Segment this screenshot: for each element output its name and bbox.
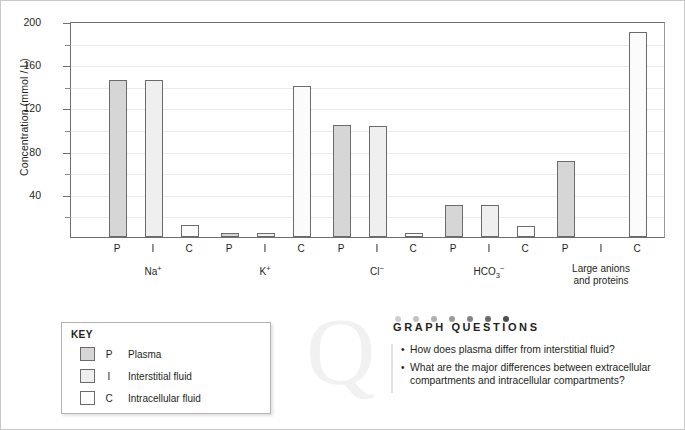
watermark-q-letter: Q bbox=[306, 304, 375, 400]
y-tick-80 bbox=[63, 153, 71, 154]
tick-label-chloride-p: P bbox=[326, 243, 356, 254]
bar-potassium-i bbox=[257, 233, 275, 237]
group-label-large-anions: Large anionsand proteins bbox=[531, 263, 671, 286]
key-label-p: Plasma bbox=[128, 349, 161, 360]
graph-questions-title: GRAPH QUESTIONS bbox=[393, 321, 540, 333]
key-title: KEY bbox=[71, 329, 93, 340]
y-tick-200 bbox=[63, 23, 71, 24]
gridline-180 bbox=[71, 45, 664, 46]
y-tick-140 bbox=[65, 88, 71, 89]
graph-figure-page: Concentration (mmol / L) 4080120160200 P… bbox=[0, 0, 685, 430]
tick-label-potassium-p: P bbox=[214, 243, 244, 254]
key-label-i: Interstitial fluid bbox=[128, 371, 192, 382]
bar-large-anions-c bbox=[629, 32, 647, 237]
key-swatch-c bbox=[80, 391, 95, 405]
plot-area: 4080120160200 bbox=[70, 22, 665, 238]
key-code-c: C bbox=[102, 393, 116, 404]
tick-label-chloride-c: C bbox=[398, 243, 428, 254]
bar-bicarbonate-p bbox=[445, 205, 463, 237]
bar-sodium-p bbox=[109, 80, 127, 237]
bar-chloride-p bbox=[333, 125, 351, 237]
y-tick-120 bbox=[63, 109, 71, 110]
y-tick-100 bbox=[65, 131, 71, 132]
graph-questions-list: How does plasma differ from interstitial… bbox=[391, 344, 666, 393]
bar-large-anions-p bbox=[557, 161, 575, 237]
y-tick-label-120: 120 bbox=[1, 103, 41, 114]
gridline-200 bbox=[71, 23, 664, 24]
bar-sodium-c bbox=[181, 225, 199, 237]
gridline-160 bbox=[71, 66, 664, 67]
key-swatch-p bbox=[80, 347, 95, 361]
bar-bicarbonate-c bbox=[517, 226, 535, 237]
tick-label-sodium-c: C bbox=[174, 243, 204, 254]
tick-label-potassium-c: C bbox=[286, 243, 316, 254]
tick-label-large-anions-p: P bbox=[550, 243, 580, 254]
bar-chloride-c bbox=[405, 233, 423, 237]
tick-label-sodium-p: P bbox=[102, 243, 132, 254]
tick-label-bicarbonate-p: P bbox=[438, 243, 468, 254]
y-tick-label-200: 200 bbox=[1, 17, 41, 28]
tick-label-potassium-i: I bbox=[250, 243, 280, 254]
y-tick-label-40: 40 bbox=[1, 190, 41, 201]
y-tick-label-80: 80 bbox=[1, 147, 41, 158]
tick-label-bicarbonate-c: C bbox=[510, 243, 540, 254]
bar-sodium-i bbox=[145, 80, 163, 237]
y-tick-60 bbox=[65, 174, 71, 175]
y-tick-160 bbox=[63, 66, 71, 67]
graph-question-2: What are the major differences between e… bbox=[401, 362, 666, 387]
y-tick-label-160: 160 bbox=[1, 60, 41, 71]
tick-label-chloride-i: I bbox=[362, 243, 392, 254]
graph-question-1: How does plasma differ from interstitial… bbox=[401, 344, 666, 356]
key-swatch-i bbox=[80, 369, 95, 383]
tick-label-sodium-i: I bbox=[138, 243, 168, 254]
bar-potassium-c bbox=[293, 86, 311, 237]
bar-potassium-p bbox=[221, 233, 239, 237]
y-tick-180 bbox=[65, 45, 71, 46]
graph-questions-block: Q GRAPH QUESTIONS How does plasma differ… bbox=[391, 304, 671, 424]
key-code-i: I bbox=[102, 371, 116, 382]
bar-chloride-i bbox=[369, 126, 387, 237]
tick-label-large-anions-c: C bbox=[622, 243, 652, 254]
tick-label-bicarbonate-i: I bbox=[474, 243, 504, 254]
y-tick-40 bbox=[63, 196, 71, 197]
key-legend: KEY PPlasmaIInterstitial fluidCIntracell… bbox=[61, 322, 271, 414]
tick-label-large-anions-i: I bbox=[586, 243, 616, 254]
bar-bicarbonate-i bbox=[481, 205, 499, 237]
bar-chart: Concentration (mmol / L) 4080120160200 P… bbox=[1, 1, 685, 301]
key-code-p: P bbox=[102, 349, 116, 360]
key-label-c: Intracellular fluid bbox=[128, 393, 201, 404]
y-tick-20 bbox=[65, 217, 71, 218]
